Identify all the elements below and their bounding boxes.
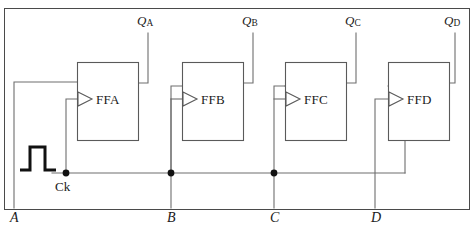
- clock-label: Ck: [55, 180, 70, 193]
- wire-ck-to-ffa-clock: [66, 99, 77, 173]
- junction-dot-b: [168, 170, 175, 177]
- wire-d-to-ffd-clock: [375, 99, 388, 208]
- ff-label-ffc: FFC: [304, 93, 328, 106]
- bit-label-b: B: [167, 211, 176, 225]
- ff-label-ffa: FFA: [96, 93, 120, 106]
- bit-label-a: A: [10, 211, 19, 225]
- bit-label-d: D: [371, 211, 381, 225]
- output-label-qa: QA: [137, 14, 153, 29]
- circuit-diagram-canvas: QA QB QC QD FFA FFB FFC FFD Ck A B C D: [0, 0, 475, 231]
- output-label-qb: QB: [242, 14, 258, 29]
- junction-dot-ck: [63, 170, 70, 177]
- wire-ffc-q-output: [346, 33, 356, 83]
- output-label-qc: QC: [345, 14, 361, 29]
- circuit-svg: [0, 0, 475, 231]
- bit-label-c: C: [270, 211, 279, 225]
- wire-ffa-q-output: [138, 33, 148, 83]
- ff-label-ffb: FFB: [201, 93, 225, 106]
- wire-ffb-q-output: [243, 33, 253, 83]
- output-label-qd: QD: [444, 14, 460, 29]
- junction-dot-c: [271, 170, 278, 177]
- clock-pulse-waveform-icon: [20, 147, 56, 170]
- ff-label-ffd: FFD: [407, 93, 432, 106]
